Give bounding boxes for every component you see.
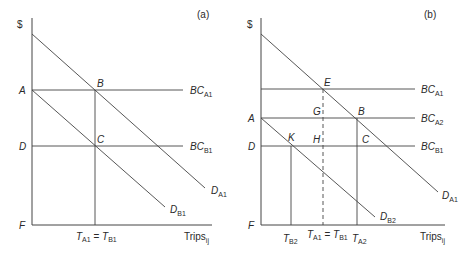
panel-b: (b) $ A D F E G B K H C BCA1 BCA2 BCB1 D… — [247, 9, 458, 245]
panel-a-d-a1-label: DA1 — [211, 185, 227, 198]
panel-b-label-f: F — [248, 220, 255, 231]
panel-a: (a) $ A D F B C BCA1 BCB1 DA1 DB1 TA1 = … — [17, 9, 227, 245]
panel-a-x-axis-label: Tripsij — [184, 231, 209, 245]
panel-b-x-axis-label: Tripsij — [420, 231, 445, 245]
panel-b-point-c: C — [362, 134, 370, 145]
panel-a-d-b1-label: DB1 — [170, 204, 186, 217]
panel-a-label-d: D — [19, 141, 26, 152]
panel-b-x-tick-ta1-tb1: TA1 = TB1 — [307, 229, 348, 241]
panel-b-d-a1-line — [261, 34, 438, 192]
panel-b-bc-a1-label: BCA1 — [421, 84, 444, 97]
panel-a-d-b1-line — [32, 90, 165, 207]
panel-a-point-c: C — [97, 134, 105, 145]
panel-b-point-b: B — [358, 106, 365, 117]
panel-a-d-a1-line — [32, 34, 205, 188]
panel-b-point-e: E — [324, 77, 331, 88]
panel-b-label-d: D — [248, 141, 255, 152]
panel-b-label-a: A — [247, 113, 255, 124]
panel-a-label-f: F — [19, 220, 26, 231]
panel-b-bc-b1-label: BCB1 — [421, 141, 444, 154]
panel-a-x-tick-ta1-tb1: TA1 = TB1 — [76, 231, 117, 243]
panel-b-d-b2-line — [261, 118, 375, 217]
economics-diagram: (a) $ A D F B C BCA1 BCB1 DA1 DB1 TA1 = … — [0, 0, 470, 257]
panel-b-tag: (b) — [424, 9, 436, 20]
panel-b-point-h: H — [313, 134, 321, 145]
panel-a-y-axis-label: $ — [17, 19, 23, 30]
panel-a-bc-a1-label: BCA1 — [190, 85, 213, 98]
panel-b-point-g: G — [313, 106, 321, 117]
panel-a-point-b: B — [97, 78, 104, 89]
panel-a-bc-b1-label: BCB1 — [190, 141, 213, 154]
panel-b-x-tick-tb2: TB2 — [283, 233, 298, 245]
panel-a-label-a: A — [18, 85, 26, 96]
panel-b-x-tick-ta2: TA2 — [352, 233, 367, 245]
panel-b-point-k: K — [288, 132, 296, 143]
panel-b-y-axis-label: $ — [247, 19, 253, 30]
panel-a-tag: (a) — [197, 9, 209, 20]
panel-b-d-a1-label: DA1 — [442, 190, 458, 203]
panel-b-bc-a2-label: BCA2 — [421, 113, 444, 126]
panel-b-d-b2-label: DB2 — [380, 211, 396, 224]
